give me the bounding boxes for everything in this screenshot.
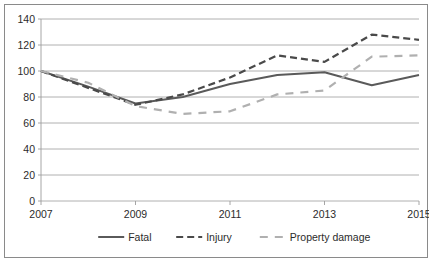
- xtick-label-2007: 2007: [29, 208, 53, 220]
- ytick-label-120: 120: [17, 39, 35, 51]
- line-chart: 02040608010012014020072009201120132015Fa…: [5, 5, 429, 259]
- ytick-label-0: 0: [29, 195, 35, 207]
- ytick-label-80: 80: [23, 91, 35, 103]
- xtick-label-2011: 2011: [219, 208, 242, 220]
- chart-plot-area: 02040608010012014020072009201120132015Fa…: [5, 5, 429, 259]
- xtick-label-2015: 2015: [407, 208, 429, 220]
- series-line-fatal: [41, 71, 419, 104]
- legend-label-property-damage: Property damage: [290, 231, 371, 243]
- chart-frame: 02040608010012014020072009201120132015Fa…: [4, 4, 428, 258]
- xtick-label-2009: 2009: [124, 208, 148, 220]
- legend-label-injury: Injury: [206, 231, 232, 243]
- ytick-label-140: 140: [17, 13, 35, 25]
- ytick-label-20: 20: [23, 169, 35, 181]
- ytick-label-100: 100: [17, 65, 35, 77]
- ytick-label-60: 60: [23, 117, 35, 129]
- xtick-label-2013: 2013: [313, 208, 337, 220]
- legend-label-fatal: Fatal: [128, 231, 151, 243]
- ytick-label-40: 40: [23, 143, 35, 155]
